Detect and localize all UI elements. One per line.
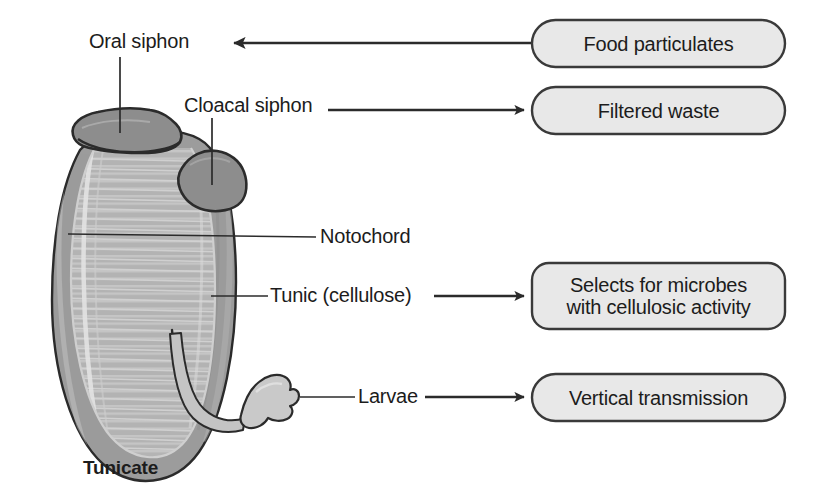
box-text-filtered-waste: Filtered waste	[532, 100, 785, 122]
label-larvae: Larvae	[358, 386, 418, 406]
label-cloacal-siphon: Cloacal siphon	[184, 95, 312, 115]
larva-head	[240, 375, 299, 428]
box-text-food-particulates: Food particulates	[532, 33, 785, 55]
tunicate-symbiosis-diagram: Oral siphon (points LEFT) --> Filtered w…	[0, 0, 838, 497]
label-tunic: Tunic (cellulose)	[270, 285, 411, 305]
label-oral-siphon: Oral siphon	[89, 31, 189, 51]
tunicate-body-illustration	[52, 108, 299, 481]
oral-siphon-shape	[73, 108, 182, 153]
outcome-boxes	[532, 20, 785, 421]
label-notochord: Notochord	[320, 226, 410, 246]
box-text-selects-microbes: Selects for microbes with cellulosic act…	[532, 274, 785, 319]
box-text-vertical-transmission: Vertical transmission	[532, 387, 785, 409]
figure-caption: Tunicate	[83, 457, 158, 479]
diagram-canvas: Oral siphon (points LEFT) --> Filtered w…	[0, 0, 838, 497]
